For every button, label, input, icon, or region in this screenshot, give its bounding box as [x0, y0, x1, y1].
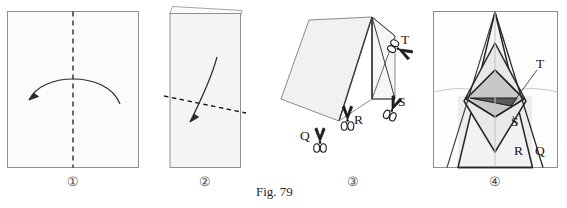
panel-2: ② [150, 0, 280, 208]
scissors-Q [314, 128, 327, 153]
label-R: R [354, 112, 363, 127]
panel-1-drawing [0, 0, 150, 180]
label-S: S [511, 114, 519, 129]
label-T: T [401, 32, 410, 47]
label-Q: Q [300, 128, 310, 143]
label-R: R [514, 143, 523, 158]
square-sheet [8, 12, 139, 168]
panel-1-number: ① [60, 176, 86, 189]
panel-3-number: ③ [340, 176, 366, 189]
label-T: T [536, 56, 545, 71]
figure-79: ① ② [0, 0, 567, 208]
label-S: S [398, 94, 406, 109]
large-left-flap [281, 17, 372, 121]
panel-3: T S R Q ③ [280, 0, 425, 208]
panel-2-drawing [150, 0, 280, 180]
panel-3-drawing: T S R Q [280, 0, 425, 180]
panel-1: ① [0, 0, 150, 208]
label-Q: Q [535, 143, 545, 158]
panel-2-number: ② [192, 176, 218, 189]
panel-4-number: ④ [482, 176, 508, 189]
figure-caption: Fig. 79 [256, 184, 293, 200]
panel-4: T S R Q ④ [425, 0, 567, 208]
panel-4-drawing: T S R Q [425, 0, 567, 180]
